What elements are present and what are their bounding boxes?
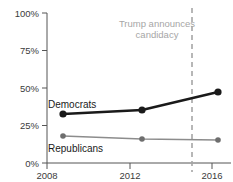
trump-announcement-line1: Trump announces [119,18,195,29]
y-axis-label-100: 100% [15,8,40,19]
y-axis-ticks [42,13,47,163]
y-axis-label-50: 50% [20,83,40,94]
series-points-republicans [60,133,221,143]
trump-announcement-line2: candidacy [136,29,179,40]
data-point-republicans-2016 [215,137,221,143]
data-point-democrats-2008 [59,110,66,117]
y-axis-label-25: 25% [20,120,40,131]
chart-canvas: 0% 25% 50% 75% 100% 2008 2012 2016 Trump… [0,0,233,182]
data-point-republicans-2012 [139,136,145,142]
y-axis-label-75: 75% [20,45,40,56]
data-point-democrats-2012 [138,106,145,113]
x-axis-label-2016: 2016 [201,170,222,181]
x-axis-label-2008: 2008 [36,170,57,181]
series-label-republicans: Republicans [48,143,103,154]
y-axis-label-0: 0% [25,158,39,169]
line-chart: 0% 25% 50% 75% 100% 2008 2012 2016 Trump… [0,0,233,182]
x-axis-ticks [47,163,212,169]
data-point-democrats-2016 [214,88,221,95]
data-point-republicans-2008 [60,133,66,139]
x-axis-label-2012: 2012 [119,170,140,181]
series-label-democrats: Democrats [48,99,96,110]
